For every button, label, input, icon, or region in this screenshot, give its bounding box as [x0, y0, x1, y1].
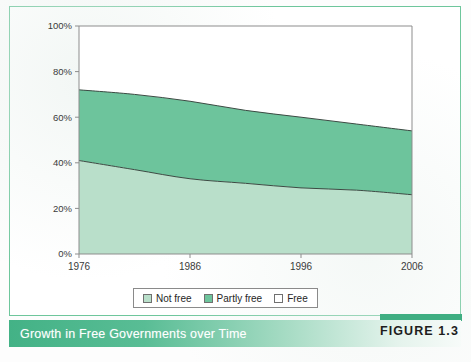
- y-tick-label: 40%: [53, 157, 73, 168]
- y-tick-label: 0%: [58, 248, 72, 259]
- legend-item-not-free[interactable]: Not free: [143, 293, 192, 304]
- source-note-strip: [9, 350, 461, 362]
- legend-swatch-partly-free: [204, 294, 213, 303]
- figure-number-label: FIGURE 1.3: [380, 324, 459, 338]
- y-tick-label: 60%: [53, 112, 73, 123]
- x-tick-label: 1976: [68, 261, 91, 272]
- series-group: [79, 26, 412, 254]
- x-axis-ticks: 1976198619962006: [68, 254, 424, 272]
- legend-item-partly-free[interactable]: Partly free: [204, 293, 263, 304]
- y-tick-label: 80%: [53, 66, 73, 77]
- legend-label-not-free: Not free: [156, 293, 192, 304]
- legend-label-free: Free: [287, 293, 308, 304]
- x-tick-label: 2006: [401, 261, 424, 272]
- legend-swatch-not-free: [143, 294, 152, 303]
- y-tick-label: 20%: [53, 203, 73, 214]
- legend-label-partly-free: Partly free: [217, 293, 263, 304]
- legend-item-free[interactable]: Free: [274, 293, 308, 304]
- figure-caption-title: Growth in Free Governments over Time: [9, 327, 247, 341]
- y-tick-label: 100%: [48, 20, 73, 31]
- x-tick-label: 1996: [290, 261, 313, 272]
- y-axis-ticks: 0%20%40%60%80%100%: [48, 20, 79, 259]
- legend-swatch-free: [274, 294, 283, 303]
- figure-container: 0%20%40%60%80%100% 1976198619962006 Not …: [0, 0, 471, 362]
- x-tick-label: 1986: [179, 261, 202, 272]
- chart-legend[interactable]: Not free Partly free Free: [133, 288, 318, 308]
